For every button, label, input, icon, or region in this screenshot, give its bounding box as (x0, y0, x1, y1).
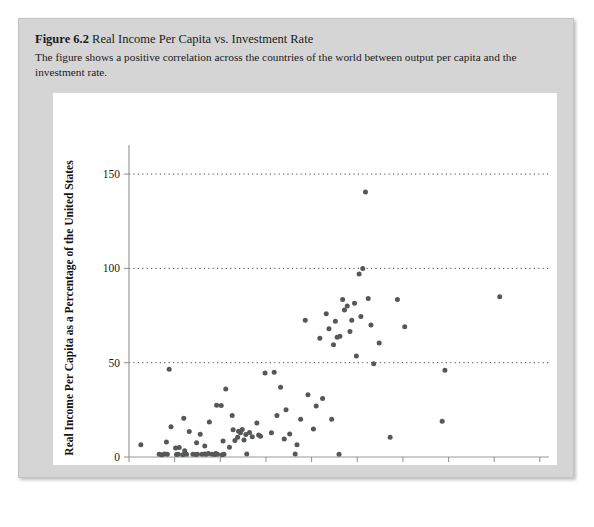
data-point (326, 326, 331, 331)
data-point (263, 371, 268, 376)
data-point (324, 311, 329, 316)
data-point (287, 431, 292, 436)
data-point (231, 427, 236, 432)
data-point (293, 451, 298, 456)
data-point (221, 438, 226, 443)
data-point (176, 452, 181, 457)
y-tick-label-50: 50 (109, 357, 121, 369)
data-point (333, 319, 338, 324)
data-point (371, 361, 376, 366)
scatter-plot: 051015202530354045050100150Investment Ra… (53, 93, 557, 465)
data-point (219, 403, 224, 408)
data-point (402, 324, 407, 329)
data-point (347, 329, 352, 334)
data-point (169, 424, 174, 429)
data-point (221, 452, 226, 457)
figure-panel: Figure 6.2 Real Income Per Capita vs. In… (18, 18, 574, 478)
data-point (311, 426, 316, 431)
data-point (215, 452, 220, 457)
data-point (345, 304, 350, 309)
data-point (250, 434, 255, 439)
data-point (184, 452, 189, 457)
data-point (368, 322, 373, 327)
data-point (187, 429, 192, 434)
data-point (138, 442, 143, 447)
data-point (352, 301, 357, 306)
data-point (164, 439, 169, 444)
data-point (395, 297, 400, 302)
data-point (349, 318, 354, 323)
data-point (317, 336, 322, 341)
figure-number: Figure 6.2 (35, 32, 89, 46)
data-point (207, 420, 212, 425)
data-point (314, 404, 319, 409)
data-point (198, 432, 203, 437)
y-tick-label-0: 0 (114, 451, 120, 463)
figure-title-line: Figure 6.2 Real Income Per Capita vs. In… (35, 31, 555, 47)
data-point (230, 413, 235, 418)
data-point (240, 427, 245, 432)
data-point (278, 385, 283, 390)
data-point (272, 370, 277, 375)
data-point (298, 417, 303, 422)
data-point (194, 440, 199, 445)
data-point (202, 444, 207, 449)
data-point (320, 396, 325, 401)
data-point (223, 387, 228, 392)
data-point (274, 413, 279, 418)
y-axis-title: Real Income Per Capita as a Percentage o… (63, 160, 76, 456)
data-point (363, 190, 368, 195)
data-point (295, 442, 300, 447)
data-point (258, 434, 263, 439)
data-point (357, 272, 362, 277)
data-point (442, 368, 447, 373)
data-point (360, 266, 365, 271)
data-point (329, 417, 334, 422)
figure-title: Real Income Per Capita vs. Investment Ra… (92, 32, 313, 46)
data-point (388, 435, 393, 440)
data-point (305, 392, 310, 397)
data-point (165, 452, 170, 457)
data-point (177, 445, 182, 450)
figure-caption: Figure 6.2 Real Income Per Capita vs. In… (35, 31, 555, 80)
data-point (167, 367, 172, 372)
data-point (242, 438, 247, 443)
data-point (440, 419, 445, 424)
chart-card: 051015202530354045050100150Investment Ra… (53, 93, 557, 465)
data-point (337, 334, 342, 339)
data-point (282, 436, 287, 441)
data-point (269, 430, 274, 435)
data-point (235, 435, 240, 440)
data-point (181, 416, 186, 421)
data-point (303, 318, 308, 323)
data-point (354, 354, 359, 359)
y-tick-label-100: 100 (103, 262, 121, 274)
data-point (497, 294, 502, 299)
data-point (244, 451, 249, 456)
data-point (366, 296, 371, 301)
data-point (284, 407, 289, 412)
y-tick-label-150: 150 (103, 168, 121, 180)
data-point (227, 445, 232, 450)
scatter-plot-svg: 051015202530354045050100150Investment Ra… (53, 93, 557, 465)
data-point (337, 452, 342, 457)
figure-description: The figure shows a positive correlation … (35, 50, 540, 80)
data-point (340, 297, 345, 302)
data-point (377, 340, 382, 345)
data-point (214, 403, 219, 408)
data-point (331, 342, 336, 347)
data-point (358, 314, 363, 319)
data-point (247, 430, 252, 435)
data-point (254, 421, 259, 426)
data-point (195, 452, 200, 457)
